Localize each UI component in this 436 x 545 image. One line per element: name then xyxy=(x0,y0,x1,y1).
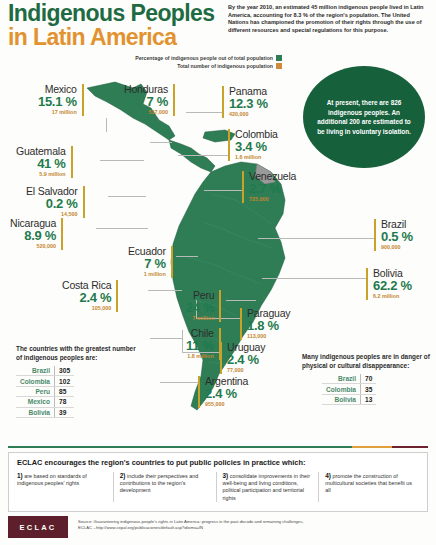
country-total: 900,000 xyxy=(381,244,413,251)
country-total: 105,000 xyxy=(62,305,111,312)
country-total: 1 million xyxy=(128,271,166,278)
footer-rule-orange xyxy=(352,446,392,448)
connector-peru xyxy=(226,300,256,301)
footer-columns: 1) are based on standards of indigenous … xyxy=(17,472,421,502)
country-total: 6.2 million xyxy=(373,293,412,300)
footer-item-number: 4) xyxy=(325,472,331,479)
country-percentage: 62.2 % xyxy=(373,279,412,293)
country-total: 1.6 million xyxy=(235,154,278,161)
row-country: Colombia xyxy=(16,376,55,386)
eclac-logo: ECLAC xyxy=(8,516,68,538)
footer-box: ECLAC encourages the region's countries … xyxy=(8,452,428,512)
country-label-nicaragua: Nicaragua 8.9 % 520,000 xyxy=(10,218,63,250)
connector-brazil xyxy=(258,238,374,239)
legend-label-percentage: Percentage of indigenous people out of t… xyxy=(135,55,273,61)
country-percentage: 12.3 % xyxy=(229,97,268,111)
country-percentage: 41 % xyxy=(16,157,66,171)
row-value: 78 xyxy=(55,397,75,407)
country-percentage: 7 % xyxy=(128,257,166,271)
connector-nicaragua xyxy=(96,228,148,229)
row-country: Bolivia xyxy=(16,407,55,417)
row-country: Bolivia xyxy=(322,394,361,404)
country-label-paraguay: Paraguay 1.8 % 113,000 xyxy=(240,308,290,340)
footer-rule-maroon xyxy=(392,446,428,448)
country-label-guatemala: Guatemala 41 % 5.9 million xyxy=(16,146,73,178)
country-percentage: 3.4 % xyxy=(235,140,278,154)
country-percentage: 7 % xyxy=(124,95,168,109)
row-value: 102 xyxy=(55,376,75,386)
footer-item-number: 1) xyxy=(17,472,23,479)
country-label-el-salvador: El Salvador 0.2 % 14,500 xyxy=(26,186,85,218)
country-percentage: 2.4 % xyxy=(227,353,265,367)
country-percentage: 0.2 % xyxy=(26,197,78,211)
eclac-logo-text: ECLAC xyxy=(20,523,57,532)
country-label-venezuela: Venezuela 2.7 % 725,000 xyxy=(242,171,296,203)
table-row: Bolivia 13 xyxy=(322,394,376,404)
footer-item-text: are based on standards of indigenous peo… xyxy=(17,473,87,486)
connector-panama xyxy=(186,112,222,113)
country-total: 420,000 xyxy=(229,111,268,118)
title-line-2: in Latin America xyxy=(8,25,228,49)
page-title: Indigenous Peoples in Latin America xyxy=(8,2,228,49)
table-row: Brazil 305 xyxy=(16,366,74,376)
greatest-number-heading: The countries with the greatest number o… xyxy=(16,344,136,362)
country-total: 77,000 xyxy=(227,367,265,374)
country-total: 1.8 million xyxy=(186,353,214,360)
country-percentage: 1.8 % xyxy=(247,319,290,333)
danger-heading: Many indigenous peoples are in danger of… xyxy=(302,352,430,370)
table-row: Mexico 78 xyxy=(16,397,74,407)
footer-item-3: 3) consolidate improvements in their wel… xyxy=(217,472,320,502)
greatest-number-table: Brazil 305 Colombia 102 Peru 85 Mexico 7… xyxy=(16,366,74,418)
legend-swatch-green xyxy=(276,55,282,61)
country-label-uruguay: Uruguay 2.4 % 77,000 xyxy=(220,342,265,374)
country-percentage: 15.1 % xyxy=(38,95,77,109)
footer-item-text: consolidate improvements in their well-b… xyxy=(223,473,311,501)
country-label-peru: Peru 24 % 7 million xyxy=(186,290,221,322)
intro-paragraph: By the year 2010, an estimated 45 millio… xyxy=(228,4,428,34)
connector-chile xyxy=(150,338,182,339)
country-label-ecuador: Ecuador 7 % 1 million xyxy=(128,246,173,278)
greatest-number-block: The countries with the greatest number o… xyxy=(16,344,136,418)
country-percentage: 2.4 % xyxy=(62,291,111,305)
legend-item-percentage: Percentage of indigenous people out of t… xyxy=(30,54,282,62)
country-percentage: 8.9 % xyxy=(10,229,56,243)
source-note: Source: Guaranteeing indigenous people's… xyxy=(78,519,418,531)
country-percentage: 11 % xyxy=(186,339,214,353)
connector-mexico xyxy=(106,118,107,132)
row-value: 305 xyxy=(55,366,75,376)
row-country: Brazil xyxy=(322,374,361,384)
connector-argentina xyxy=(160,382,198,383)
connector-uruguay-vertical xyxy=(182,330,183,352)
footer-title: ECLAC encourages the region's countries … xyxy=(17,458,305,467)
connector-guatemala xyxy=(100,160,144,161)
danger-block: Many indigenous peoples are in danger of… xyxy=(302,352,430,405)
connector-costarica xyxy=(148,290,182,291)
table-row: Colombia 35 xyxy=(322,384,376,394)
country-total: 113,000 xyxy=(247,333,290,340)
table-row: Brazil 70 xyxy=(322,374,376,384)
country-total: 520,000 xyxy=(10,243,56,250)
country-percentage: 0.5 % xyxy=(381,230,413,244)
country-label-chile: Chile 11 % 1.8 million xyxy=(186,328,221,360)
country-percentage: 24 % xyxy=(186,301,214,315)
row-value: 70 xyxy=(361,374,377,384)
country-label-colombia: Colombia 3.4 % 1.6 million xyxy=(228,129,278,161)
country-label-argentina: Argentina 2.4 % 955,000 xyxy=(198,376,248,408)
country-total: 5.9 million xyxy=(16,171,66,178)
table-row: Peru 85 xyxy=(16,386,74,396)
table-row: Bolivia 39 xyxy=(16,407,74,417)
country-label-bolivia: Bolivia 62.2 % 6.2 million xyxy=(366,268,412,300)
row-country: Brazil xyxy=(16,366,55,376)
connector-venezuela xyxy=(204,190,242,191)
footer-item-number: 2) xyxy=(120,472,126,479)
title-line-1: Indigenous Peoples xyxy=(8,2,228,25)
connector-ecuador xyxy=(176,256,198,257)
country-total: 17 million xyxy=(38,109,77,116)
row-value: 85 xyxy=(55,386,75,396)
country-percentage: 2.4 % xyxy=(205,387,248,401)
row-value: 35 xyxy=(361,384,377,394)
country-total: 955,000 xyxy=(205,401,248,408)
danger-table: Brazil 70 Colombia 35 Bolivia 13 xyxy=(322,374,376,405)
connector-honduras xyxy=(150,142,172,143)
country-percentage: 2.7 % xyxy=(249,182,296,196)
